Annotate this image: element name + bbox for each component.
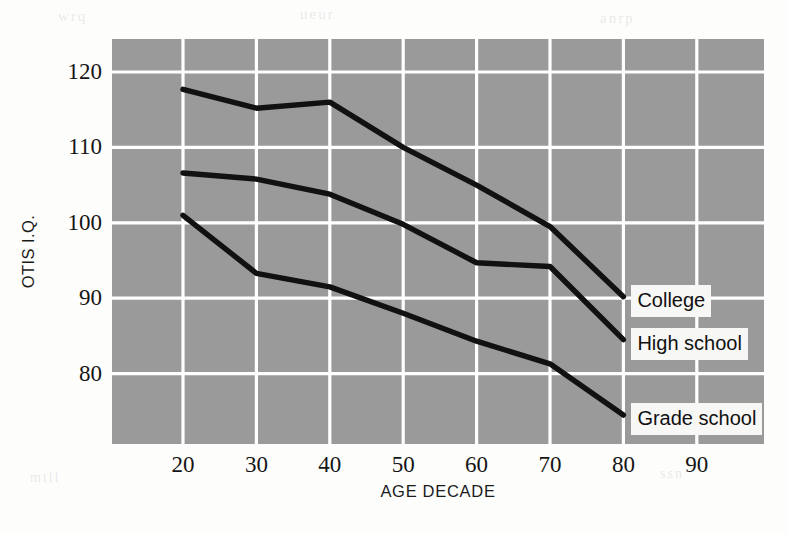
series-label-high-school: High school	[631, 328, 748, 360]
x-tick-label-90: 90	[685, 452, 708, 478]
x-tick-label-40: 40	[318, 452, 341, 478]
y-tick-label-80: 80	[79, 361, 102, 387]
y-tick-label-100: 100	[68, 210, 103, 236]
ghost-text-bottom-right: ssn	[660, 466, 684, 482]
y-axis-tick-labels: 1201101009080	[40, 0, 102, 533]
series-line-grade-school	[183, 215, 623, 415]
x-tick-label-30: 30	[245, 452, 268, 478]
y-axis-title: OTIS I.Q.	[19, 182, 38, 322]
x-tick-label-80: 80	[612, 452, 635, 478]
plot-area	[112, 39, 764, 444]
ghost-text-top-right: anrp	[600, 10, 635, 27]
y-tick-label-110: 110	[68, 134, 102, 160]
series-lines	[112, 39, 764, 444]
x-tick-label-70: 70	[539, 452, 562, 478]
x-tick-label-50: 50	[392, 452, 415, 478]
series-label-grade-school: Grade school	[631, 403, 762, 435]
ghost-text-top-mid: ueur	[300, 6, 335, 23]
y-tick-label-90: 90	[79, 285, 102, 311]
x-tick-label-20: 20	[172, 452, 195, 478]
y-tick-label-120: 120	[68, 59, 103, 85]
series-label-college: College	[631, 285, 711, 317]
chart-page: wrq ueur anrp mtll ssn 1201101009080 203…	[0, 0, 788, 533]
x-tick-label-60: 60	[465, 452, 488, 478]
x-axis-title: AGE DECADE	[112, 482, 764, 501]
